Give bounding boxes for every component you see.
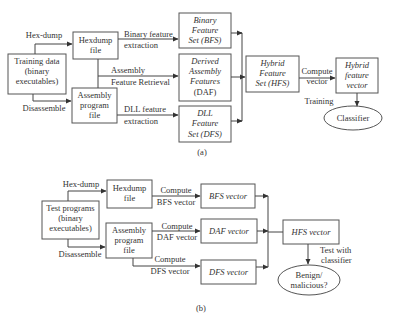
svg-text:Training: Training	[305, 96, 335, 106]
svg-text:extraction: extraction	[124, 40, 159, 50]
daf-vector-box: DAF vector	[201, 219, 257, 243]
svg-text:Binary feature: Binary feature	[124, 29, 173, 39]
svg-text:Binary: Binary	[193, 15, 216, 25]
benign-malicious-ellipse: Benign/ malicious?	[278, 265, 340, 295]
svg-text:Benign/: Benign/	[296, 270, 324, 280]
svg-text:Disassemble: Disassemble	[23, 103, 66, 113]
svg-text:DFS vector: DFS vector	[208, 267, 249, 277]
hexdump-file-box: Hexdump file	[73, 32, 118, 59]
svg-text:Feature: Feature	[191, 25, 219, 35]
svg-text:DFS vector: DFS vector	[151, 266, 190, 276]
svg-text:Features: Features	[189, 76, 221, 86]
svg-text:malicious?: malicious?	[291, 280, 328, 290]
svg-text:(binary: (binary	[25, 66, 50, 76]
svg-text:HFS vector: HFS vector	[291, 227, 332, 237]
svg-text:DLL: DLL	[196, 108, 213, 118]
svg-text:(binary: (binary	[58, 213, 83, 223]
svg-text:Derived: Derived	[190, 56, 219, 66]
svg-text:DLL feature: DLL feature	[124, 104, 166, 114]
svg-text:Test with: Test with	[320, 245, 352, 255]
hybrid-feature-vector-box: Hybrid feature vector	[336, 58, 378, 93]
svg-text:Disassemble: Disassemble	[59, 249, 102, 259]
diagram-a: Training data (binary executables) Hexdu…	[8, 13, 382, 157]
svg-text:classifier: classifier	[321, 255, 352, 265]
svg-text:(DAF): (DAF)	[194, 87, 217, 97]
svg-text:Hexdump: Hexdump	[113, 183, 147, 193]
assembly-file-box: Assembly program file	[72, 88, 117, 123]
svg-text:program: program	[115, 235, 144, 245]
svg-text:DAF vector: DAF vector	[208, 226, 250, 236]
svg-text:Compute: Compute	[154, 254, 185, 264]
svg-text:Hex-dump: Hex-dump	[26, 30, 62, 40]
diagram-b: Test programs (binary executables) Hexdu…	[42, 179, 352, 313]
svg-text:executables): executables)	[16, 76, 59, 86]
dfs-vector-box: DFS vector	[201, 260, 256, 284]
svg-text:program: program	[80, 100, 109, 110]
svg-text:vector: vector	[306, 76, 327, 86]
svg-text:file: file	[123, 245, 135, 255]
caption-a: (a)	[197, 147, 207, 157]
svg-text:vector: vector	[346, 80, 368, 90]
test-hexdump-arrow	[68, 191, 106, 201]
test-disassemble-arrow	[68, 239, 105, 247]
svg-text:Assembly: Assembly	[78, 90, 113, 100]
dfs-box: DLL Feature Set (DFS)	[179, 106, 231, 142]
svg-text:Compute: Compute	[301, 66, 332, 76]
svg-text:Set (BFS): Set (BFS)	[189, 35, 222, 45]
svg-text:Test programs: Test programs	[46, 203, 94, 213]
svg-text:feature: feature	[345, 70, 369, 80]
bfs-box: Binary Feature Set (BFS)	[179, 13, 231, 48]
caption-b: (b)	[196, 303, 206, 313]
hfs-vector-box: HFS vector	[283, 220, 339, 244]
svg-text:Assembly: Assembly	[188, 66, 221, 76]
training-data-box: Training data (binary executables)	[8, 54, 66, 94]
svg-text:Hex-dump: Hex-dump	[63, 179, 99, 189]
hfs-box: Hybrid Feature Set (HFS)	[246, 56, 299, 92]
svg-text:executables): executables)	[49, 223, 92, 233]
svg-text:Feature: Feature	[258, 68, 286, 78]
svg-text:extraction: extraction	[124, 116, 159, 126]
test-hexdump-file-box: Hexdump file	[107, 180, 152, 208]
svg-text:Feature Retrieval: Feature Retrieval	[111, 77, 170, 87]
svg-text:Feature: Feature	[191, 118, 219, 128]
disassemble-arrow	[33, 94, 71, 101]
svg-text:Compute: Compute	[160, 185, 191, 195]
svg-text:Assembly: Assembly	[111, 65, 146, 75]
svg-text:BFS vector: BFS vector	[157, 197, 196, 207]
svg-text:Compute: Compute	[161, 221, 192, 231]
bfs-vector-box: BFS vector	[201, 184, 255, 208]
svg-text:Assembly: Assembly	[112, 225, 147, 235]
test-assembly-file-box: Assembly program file	[106, 223, 152, 258]
svg-text:Classifier: Classifier	[337, 113, 370, 123]
svg-text:file: file	[90, 45, 102, 55]
svg-text:BFS vector: BFS vector	[209, 191, 248, 201]
classifier-ellipse: Classifier	[324, 106, 382, 130]
hexdump-arrow	[35, 44, 72, 54]
daf-box: Derived Assembly Features (DAF)	[179, 54, 231, 101]
test-programs-box: Test programs (binary executables)	[42, 201, 99, 239]
svg-text:file: file	[124, 193, 136, 203]
svg-text:DAF vector: DAF vector	[157, 232, 198, 242]
svg-text:Set (DFS): Set (DFS)	[188, 129, 222, 139]
svg-text:Hybrid: Hybrid	[259, 58, 285, 68]
diagram-canvas: Training data (binary executables) Hexdu…	[0, 0, 396, 321]
svg-text:Hybrid: Hybrid	[344, 60, 370, 70]
svg-text:Set (HFS): Set (HFS)	[256, 78, 290, 88]
svg-text:file: file	[89, 110, 101, 120]
svg-text:Hexdump: Hexdump	[79, 35, 113, 45]
svg-text:Training data: Training data	[14, 56, 59, 66]
